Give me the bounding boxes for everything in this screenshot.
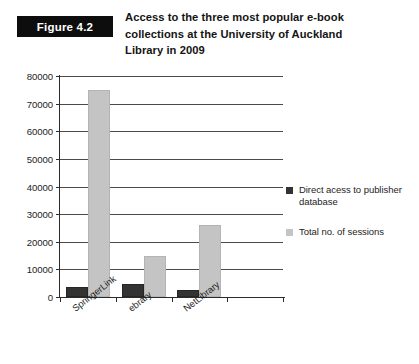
figure-header: Figure 4.2 Access to the three most popu… [0, 0, 419, 68]
figure-title-line-1: Access to the three most popular e-book [125, 9, 410, 26]
figure-title-line-2: collections at the University of Aucklan… [125, 26, 410, 43]
x-axis-tick-mark [172, 297, 173, 302]
bar-group [172, 76, 228, 297]
y-axis-tick-label: 50000 [27, 153, 53, 164]
legend-label: Total no. of sessions [299, 226, 384, 238]
bar-chart: 0100002000030000400005000060000700008000… [0, 60, 419, 364]
legend-swatch-icon [286, 229, 293, 236]
legend-entry: Total no. of sessions [286, 226, 418, 238]
x-axis-tick-mark [227, 297, 228, 302]
y-axis-tick-label: 80000 [27, 71, 53, 82]
bar-group [116, 76, 172, 297]
bar-group [60, 76, 116, 297]
bar [88, 90, 110, 297]
legend-swatch-icon [286, 187, 293, 194]
legend-entry: Direct acess to publisher database [286, 184, 418, 209]
x-axis-tick-mark [60, 297, 61, 302]
figure-label-box: Figure 4.2 [17, 16, 113, 37]
y-axis-tick-label: 30000 [27, 209, 53, 220]
y-axis-tick-label: 60000 [27, 126, 53, 137]
plot-area: 0100002000030000400005000060000700008000… [60, 76, 283, 297]
figure-title: Access to the three most popular e-book … [125, 9, 410, 59]
y-axis-tick-label: 20000 [27, 236, 53, 247]
y-axis-tick-label: 70000 [27, 98, 53, 109]
chart-legend: Direct acess to publisher databaseTotal … [286, 184, 418, 255]
figure-label-text: Figure 4.2 [37, 21, 93, 33]
legend-label: Direct acess to publisher database [299, 184, 418, 209]
y-axis-tick-label: 0 [48, 292, 53, 303]
x-axis-tick-mark [116, 297, 117, 302]
y-axis-tick-label: 40000 [27, 181, 53, 192]
y-axis-tick-label: 10000 [27, 264, 53, 275]
figure-title-line-3: Library in 2009 [125, 42, 410, 59]
x-axis-tick-mark [283, 297, 284, 302]
